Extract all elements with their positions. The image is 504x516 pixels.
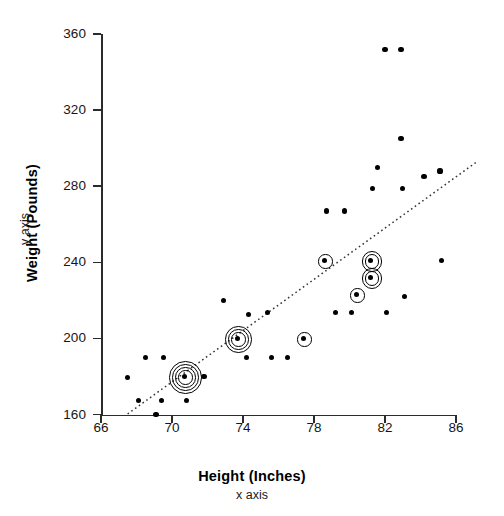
y-axis-subtitle: y axis bbox=[18, 149, 32, 309]
data-points-layer bbox=[0, 0, 504, 516]
data-point bbox=[161, 355, 166, 360]
data-point bbox=[421, 174, 426, 179]
x-axis-title: Height (Inches) bbox=[0, 468, 504, 484]
data-point bbox=[333, 310, 338, 315]
data-point bbox=[324, 208, 329, 213]
data-point bbox=[182, 374, 187, 379]
data-point bbox=[370, 186, 375, 191]
data-point bbox=[375, 165, 380, 170]
data-point bbox=[285, 355, 290, 360]
data-point bbox=[125, 375, 130, 380]
data-point bbox=[201, 374, 206, 379]
data-point bbox=[437, 168, 442, 173]
data-point bbox=[143, 355, 148, 360]
data-point bbox=[382, 47, 387, 52]
data-point bbox=[159, 398, 164, 403]
data-point bbox=[349, 310, 354, 315]
scatter-plot: 160200240280320360 667074788286 Height (… bbox=[0, 0, 504, 516]
data-point bbox=[342, 208, 347, 213]
data-point bbox=[384, 310, 389, 315]
data-point bbox=[398, 136, 403, 141]
data-point bbox=[184, 398, 189, 403]
data-point bbox=[269, 355, 274, 360]
data-point bbox=[439, 258, 444, 263]
data-point bbox=[400, 186, 405, 191]
data-point bbox=[136, 398, 141, 403]
data-point bbox=[153, 412, 158, 417]
data-point bbox=[301, 336, 306, 341]
data-point bbox=[265, 310, 270, 315]
data-point bbox=[221, 298, 226, 303]
data-point bbox=[402, 294, 407, 299]
data-point bbox=[246, 312, 251, 317]
data-point bbox=[244, 355, 249, 360]
x-axis-subtitle: x axis bbox=[0, 488, 504, 502]
data-point bbox=[398, 47, 403, 52]
